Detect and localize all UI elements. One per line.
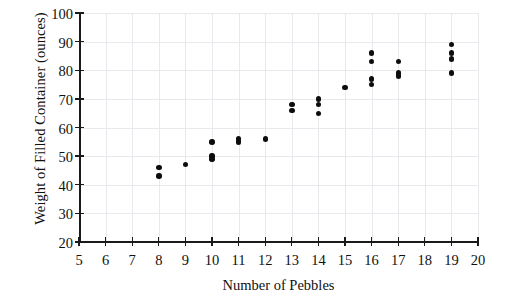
y-axis-tick (75, 70, 84, 71)
y-axis-tick-label: 40 (41, 179, 73, 194)
x-axis-tick-label: 6 (91, 253, 121, 268)
gridline-vertical (451, 13, 452, 242)
y-axis-tick-label: 20 (41, 236, 73, 251)
x-axis-tick-label: 12 (250, 253, 280, 268)
y-axis-tick (75, 155, 84, 156)
gridline-vertical (265, 13, 266, 242)
scatter-point (449, 42, 454, 47)
x-axis-tick (477, 237, 478, 246)
scatter-point (449, 70, 454, 75)
x-axis-tick-label: 15 (330, 253, 360, 268)
x-axis-tick-label: 19 (436, 253, 466, 268)
gridline-vertical (159, 13, 160, 242)
scatter-point (316, 111, 321, 116)
gridline-horizontal (79, 156, 478, 157)
x-axis-line (79, 241, 478, 243)
x-axis-tick-label: 16 (357, 253, 387, 268)
gridline-vertical (425, 13, 426, 242)
x-axis-tick (132, 237, 133, 246)
x-axis-tick (105, 237, 106, 246)
x-axis-tick-label: 18 (410, 253, 440, 268)
y-axis-tick-label: 100 (41, 7, 73, 22)
y-axis-tick (75, 41, 84, 42)
gridline-vertical (318, 13, 319, 242)
x-axis-tick (318, 237, 319, 246)
scatter-point (289, 102, 294, 107)
scatter-point (369, 82, 374, 87)
y-axis-tick (75, 12, 84, 13)
scatter-point (369, 76, 374, 81)
gridline-vertical (478, 13, 479, 242)
x-axis-tick-label: 14 (303, 253, 333, 268)
scatter-point (209, 156, 214, 161)
x-axis-tick (424, 237, 425, 246)
y-axis-tick (75, 213, 84, 214)
x-axis-tick (451, 237, 452, 246)
gridline-vertical (239, 13, 240, 242)
x-axis-tick-label: 8 (144, 253, 174, 268)
x-axis-tick-label: 20 (463, 253, 493, 268)
x-axis-tick (185, 237, 186, 246)
gridline-vertical (372, 13, 373, 242)
x-axis-tick (265, 237, 266, 246)
scatter-point (316, 102, 321, 107)
x-axis-tick (211, 237, 212, 246)
gridline-horizontal (79, 99, 478, 100)
scatter-point (342, 85, 347, 90)
gridline-horizontal (79, 185, 478, 186)
gridline-vertical (132, 13, 133, 242)
scatter-point (396, 73, 401, 78)
y-axis-tick-label: 80 (41, 64, 73, 79)
scatter-point (369, 50, 374, 55)
gridline-vertical (185, 13, 186, 242)
scatter-point (156, 173, 161, 178)
gridline-vertical (345, 13, 346, 242)
scatter-point (183, 162, 188, 167)
y-axis-tick (75, 184, 84, 185)
scatter-point (263, 136, 268, 141)
scatter-point (209, 139, 214, 144)
x-axis-tick (78, 237, 79, 246)
y-axis-tick-label: 60 (41, 122, 73, 137)
gridline-horizontal (79, 213, 478, 214)
y-axis-tick (75, 127, 84, 128)
x-axis-title: Number of Pebbles (79, 277, 478, 294)
gridline-horizontal (79, 128, 478, 129)
y-axis-tick-label: 50 (41, 150, 73, 165)
gridline-horizontal (79, 70, 478, 71)
scatter-point (369, 59, 374, 64)
plot-area (79, 13, 478, 242)
x-axis-tick-label: 9 (170, 253, 200, 268)
x-axis-tick-label: 13 (277, 253, 307, 268)
x-axis-tick-label: 17 (383, 253, 413, 268)
x-axis-tick (238, 237, 239, 246)
gridline-horizontal (79, 42, 478, 43)
x-axis-tick-label: 11 (224, 253, 254, 268)
scatter-point (449, 50, 454, 55)
x-axis-tick-label: 5 (64, 253, 94, 268)
scatter-point (236, 139, 241, 144)
gridline-horizontal (79, 13, 478, 14)
scatter-point (289, 108, 294, 113)
gridline-vertical (106, 13, 107, 242)
x-axis-tick-label: 7 (117, 253, 147, 268)
scatter-point (396, 59, 401, 64)
scatter-point (156, 165, 161, 170)
x-axis-tick (291, 237, 292, 246)
y-axis-tick-label: 90 (41, 36, 73, 51)
scatter-point (316, 96, 321, 101)
y-axis-tick-label: 70 (41, 93, 73, 108)
x-axis-tick-label: 10 (197, 253, 227, 268)
x-axis-tick (344, 237, 345, 246)
gridline-vertical (398, 13, 399, 242)
scatter-plot-figure: Weight of Filled Container (ounces) 2030… (0, 0, 511, 305)
gridline-vertical (292, 13, 293, 242)
y-axis-tick (75, 98, 84, 99)
scatter-point (449, 56, 454, 61)
x-axis-tick (158, 237, 159, 246)
x-axis-tick (398, 237, 399, 246)
gridline-vertical (212, 13, 213, 242)
x-axis-tick (371, 237, 372, 246)
y-axis-tick-label: 30 (41, 207, 73, 222)
